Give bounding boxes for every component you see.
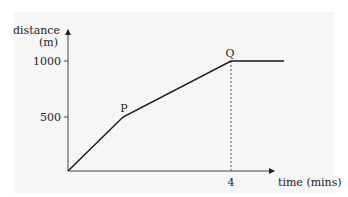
distance-time-chart: distance (m) 1000 500 4 time (mins) P Q [0, 0, 348, 197]
point-label-q: Q [225, 47, 234, 60]
x-axis-label: time (mins) [278, 176, 342, 189]
y-tick-label-1000: 1000 [33, 55, 61, 68]
y-axis-label-line2: (m) [39, 36, 58, 49]
journey-line [68, 61, 284, 171]
point-label-p: P [120, 102, 128, 115]
x-tick-label-4: 4 [228, 176, 235, 189]
y-tick-label-500: 500 [40, 111, 61, 124]
